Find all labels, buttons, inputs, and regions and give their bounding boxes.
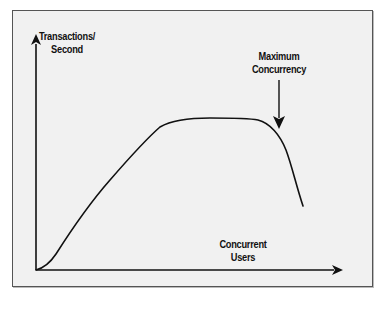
max-concurrency-arrow — [273, 80, 285, 129]
y-axis — [31, 34, 41, 270]
x-axis-label-line2: Users — [216, 251, 271, 264]
x-axis — [36, 265, 343, 275]
y-axis-label-line2: Second — [34, 43, 99, 56]
y-axis-label: Transactions/ Second — [34, 30, 99, 56]
y-axis-label-line1: Transactions/ — [34, 30, 99, 43]
max-concurrency-label-line2: Concurrency — [246, 63, 311, 76]
max-concurrency-label: Maximum Concurrency — [246, 50, 311, 76]
x-axis-label-line1: Concurrent — [216, 238, 271, 251]
max-concurrency-label-line1: Maximum — [246, 50, 311, 63]
x-axis-label: Concurrent Users — [216, 238, 271, 264]
